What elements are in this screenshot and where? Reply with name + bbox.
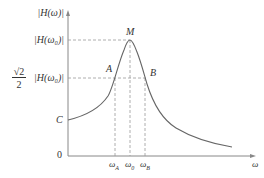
- omega-b-subscript: B: [146, 165, 150, 171]
- half-power-coefficient-denominator: 2: [12, 79, 26, 90]
- omega-0-label: ω0: [125, 160, 134, 171]
- y-axis-label: |H(ω)|: [28, 8, 64, 18]
- point-a-label: A: [106, 64, 112, 74]
- y-axis-arrow-icon: [66, 10, 70, 16]
- point-b-label: B: [150, 68, 156, 78]
- half-power-coefficient-numerator: √2: [12, 66, 26, 78]
- omega-b-label: ωB: [140, 160, 150, 171]
- point-c-label: C: [56, 115, 63, 125]
- peak-value-label: |H(ω₀)|: [20, 35, 64, 45]
- origin-label: 0: [54, 150, 62, 160]
- point-m-label: M: [126, 27, 134, 37]
- x-axis-arrow-icon: [250, 154, 256, 158]
- x-axis-label: ω: [252, 160, 258, 169]
- omega-a-label: ωA: [109, 160, 119, 171]
- resonance-curve: [68, 40, 232, 147]
- omega-a-subscript: A: [115, 165, 119, 171]
- omega-0-subscript: 0: [131, 165, 134, 171]
- half-power-value-label: |H(ω₀)|: [26, 73, 64, 83]
